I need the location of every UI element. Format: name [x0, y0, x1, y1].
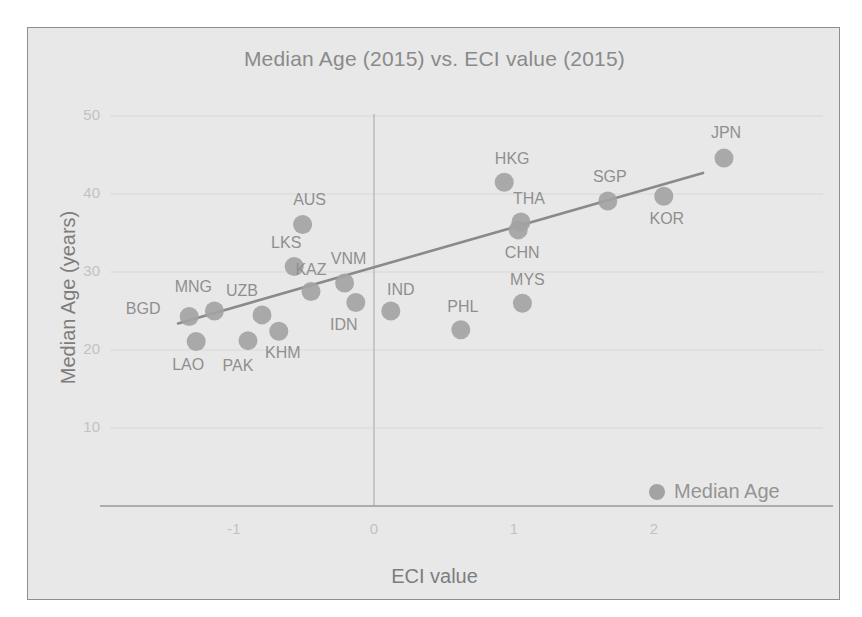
data-point-label: LAO	[172, 356, 204, 374]
data-point[interactable]	[180, 307, 199, 326]
data-point-label: AUS	[293, 191, 326, 209]
data-point[interactable]	[302, 282, 321, 301]
data-point[interactable]	[495, 173, 514, 192]
data-point-label: CHN	[505, 244, 540, 262]
data-point[interactable]	[293, 215, 312, 234]
data-point-label: PHL	[447, 298, 478, 316]
data-point[interactable]	[509, 220, 528, 239]
x-tick-label: 0	[354, 520, 394, 537]
data-point[interactable]	[598, 192, 617, 211]
data-point[interactable]	[269, 322, 288, 341]
x-tick-label: -1	[214, 520, 254, 537]
data-point-label: THA	[513, 190, 545, 208]
data-point-label: UZB	[226, 282, 258, 300]
data-point[interactable]	[187, 332, 206, 351]
data-point[interactable]	[451, 320, 470, 339]
data-point-label: MYS	[510, 271, 545, 289]
data-point[interactable]	[654, 187, 673, 206]
data-point[interactable]	[253, 305, 272, 324]
trend-line	[178, 173, 703, 324]
data-point[interactable]	[239, 331, 258, 350]
data-point[interactable]	[346, 293, 365, 312]
data-point-label: IDN	[330, 316, 358, 334]
data-point[interactable]	[513, 294, 532, 313]
data-point-label: MNG	[175, 278, 212, 296]
data-point-label: VNM	[331, 250, 367, 268]
chart-frame: Median Age (2015) vs. ECI value (2015) 1…	[27, 27, 840, 600]
legend-marker-icon	[649, 484, 665, 500]
legend-label: Median Age	[674, 480, 780, 503]
data-point[interactable]	[205, 302, 224, 321]
data-point-label: LKS	[271, 234, 301, 252]
data-point-label: KHM	[265, 344, 301, 362]
data-point-label: SGP	[593, 168, 627, 186]
data-point-label: KAZ	[295, 261, 326, 279]
data-point-label: IND	[387, 281, 415, 299]
legend: Median Age	[649, 480, 780, 503]
data-point[interactable]	[335, 273, 354, 292]
data-point-label: BGD	[126, 300, 161, 318]
data-point-label: PAK	[223, 357, 254, 375]
x-tick-label: 1	[494, 520, 534, 537]
data-point-label: JPN	[711, 124, 741, 142]
data-point-label: KOR	[649, 210, 684, 228]
x-tick-label: 2	[634, 520, 674, 537]
data-point-label: HKG	[495, 150, 530, 168]
data-point[interactable]	[715, 149, 734, 168]
x-axis-label: ECI value	[28, 565, 841, 588]
y-axis-label: Median Age (years)	[57, 88, 80, 508]
data-point[interactable]	[381, 302, 400, 321]
